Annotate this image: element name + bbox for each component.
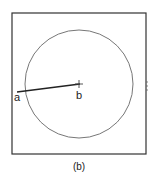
point-label-a: a <box>14 91 21 103</box>
segment-a-b <box>17 84 80 92</box>
center-cross-icon <box>75 80 83 88</box>
point-label-b: b <box>76 89 82 101</box>
figure-caption: (b) <box>73 161 85 172</box>
diagram-canvas: a b (b) <box>0 0 158 180</box>
